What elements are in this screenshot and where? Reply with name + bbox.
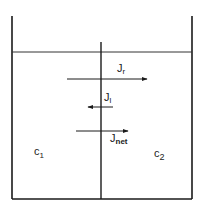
flux-left-label: Jl <box>104 91 112 105</box>
flux-right-label: Jr <box>117 62 126 76</box>
membrane-flux-diagram: Jr Jl Jnet c1 c2 <box>0 0 200 212</box>
concentration-right-label: c2 <box>154 147 165 162</box>
flux-net-label: Jnet <box>110 132 128 146</box>
concentration-left-label: c1 <box>34 145 45 160</box>
